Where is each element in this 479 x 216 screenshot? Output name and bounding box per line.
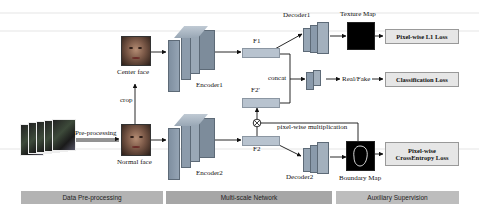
- classification-loss-box: Classification Loss: [385, 72, 459, 87]
- concat-label: concat: [268, 75, 286, 82]
- boundary-outline-icon: [347, 142, 374, 170]
- ce-loss-label-line2: CrossEntropy Loss: [395, 154, 448, 161]
- crop-label: crop: [120, 97, 132, 104]
- decoder1-block: [303, 20, 331, 54]
- texture-map-label: Texture Map: [340, 11, 376, 18]
- f2-label: F2: [253, 146, 260, 153]
- decoder2-block: [303, 140, 331, 174]
- stage-label: Data Pre-processing: [62, 194, 121, 201]
- boundary-map-image: [346, 141, 375, 171]
- pixel-wise-l1-loss-box: Pixel-wise L1 Loss: [385, 29, 459, 44]
- classifier-block: [306, 68, 326, 90]
- texture-map-image: [347, 22, 375, 50]
- encoder2-label: Encoder2: [196, 170, 223, 177]
- stage-multi-scale-network: Multi-scale Network: [166, 191, 332, 204]
- boundary-map-label: Boundary Map: [339, 175, 381, 182]
- f1-feature-box: [242, 48, 280, 58]
- f2-feature-box: [242, 136, 280, 146]
- cross-entropy-loss-box: Pixel-wise CrossEntropy Loss: [385, 142, 459, 166]
- decoder2-label: Decoder2: [286, 174, 313, 181]
- decoder1-label: Decoder1: [283, 12, 310, 19]
- normal-face-image: [121, 124, 151, 156]
- f2-prime-label: F2': [251, 87, 260, 94]
- pre-processing-label: Pre-processing: [75, 130, 117, 137]
- f2-prime-feature-box: [242, 98, 280, 108]
- stage-label: Auxiliary Supervision: [367, 194, 427, 201]
- pixel-wise-multiplication-label: pixel-wise multiplication: [277, 124, 347, 131]
- center-face-label: Center face: [117, 69, 149, 76]
- l1-loss-label: Pixel-wise L1 Loss: [396, 33, 447, 40]
- stage-data-preprocessing: Data Pre-processing: [21, 191, 163, 204]
- stage-label: Multi-scale Network: [221, 194, 278, 201]
- stage-auxiliary-supervision: Auxiliary Supervision: [336, 191, 459, 204]
- normal-face-label: Normal face: [117, 159, 152, 166]
- classification-loss-label: Classification Loss: [396, 76, 448, 83]
- ce-loss-label-line1: Pixel-wise: [408, 147, 436, 154]
- encoder1-label: Encoder1: [196, 82, 223, 89]
- center-face-image: [121, 36, 151, 66]
- real-fake-label: Real/Fake: [342, 76, 370, 83]
- f1-label: F1: [253, 38, 260, 45]
